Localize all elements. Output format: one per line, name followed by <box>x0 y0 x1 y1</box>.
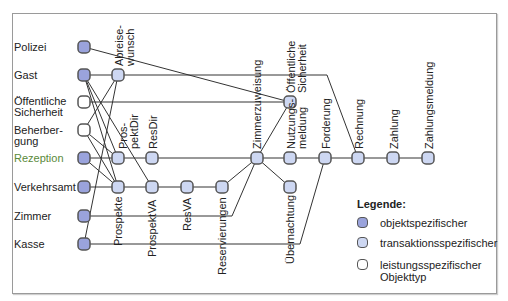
row-label-oeff-sicherheit: Öffentliche Sicherheit <box>14 96 66 118</box>
node-nutzungsmeldung <box>284 152 296 164</box>
legend-transaction-label: transaktionsspezifischer <box>380 237 497 249</box>
node-verkehrsamt <box>78 181 90 193</box>
node-rechnung <box>352 152 364 164</box>
node-oeff-sicherheit-row <box>78 96 90 108</box>
col-label-reservierungen: Reservierungen <box>217 197 228 275</box>
node-resva <box>181 181 193 193</box>
node-zimmerzuweisung <box>251 152 263 164</box>
col-label-nutzungsmeldung: Nutzungs- meldung <box>286 99 308 149</box>
node-rezeption <box>78 152 90 164</box>
col-label-uebernachtung: Übernachtung <box>285 195 296 264</box>
col-label-prospektdir: Pros- pektDir <box>118 114 140 149</box>
col-label-prospektva: ProspektVA <box>147 200 158 257</box>
row-label-beherbergung: Beherber- gung <box>14 125 63 147</box>
node-forderung <box>319 152 331 164</box>
node-prospekte <box>112 181 124 193</box>
col-label-zimmerzuweisung: Zimmerzuweisung <box>252 60 263 149</box>
node-gast <box>78 69 90 81</box>
legend-service-swatch <box>357 259 368 270</box>
node-zahlungsmeldung <box>422 152 434 164</box>
col-label-abreisewunsch: Abreise- wunsch <box>114 25 136 66</box>
node-resdir <box>146 152 158 164</box>
node-zahlung <box>387 152 399 164</box>
col-label-resva: ResVA <box>182 198 193 231</box>
row-label-zimmer: Zimmer <box>14 211 51 222</box>
row-label-verkehrsamt: Verkehrsamt <box>14 182 76 193</box>
col-label-resdir: ResDir <box>148 115 159 149</box>
node-zimmer <box>78 210 90 222</box>
legend-object-label: objektspezifischer <box>380 217 467 229</box>
object-type-network <box>0 0 508 301</box>
node-abreisewunsch <box>112 69 124 81</box>
node-polizei <box>78 41 90 53</box>
node-prospektva <box>146 181 158 193</box>
col-label-zahlungsmeldung: Zahlungsmeldung <box>424 62 435 149</box>
node-reservierungen <box>216 181 228 193</box>
node-prospektdir <box>112 152 124 164</box>
col-label-forderung: Forderung <box>321 98 332 149</box>
col-label-prospekte: Prospekte <box>113 196 124 246</box>
node-kasse <box>78 238 90 250</box>
legend-service-label: leistungsspezifischer Objekttyp <box>380 259 482 283</box>
row-label-polizei: Polizei <box>14 42 46 53</box>
col-label-rechnung: Rechnung <box>354 99 365 149</box>
col-label-zahlung: Zahlung <box>389 109 400 149</box>
row-label-rezeption: Rezeption <box>14 153 64 164</box>
node-uebernachtung <box>284 181 296 193</box>
legend-object-swatch <box>357 217 368 228</box>
row-label-kasse: Kasse <box>14 239 45 250</box>
row-label-gast: Gast <box>14 70 37 81</box>
col-label-oeff-sicherheit: Öffentliche Sicherheit <box>286 41 308 93</box>
node-beherbergung <box>78 124 90 136</box>
legend-transaction-swatch <box>357 237 368 248</box>
legend-title: Legende: <box>357 198 406 210</box>
